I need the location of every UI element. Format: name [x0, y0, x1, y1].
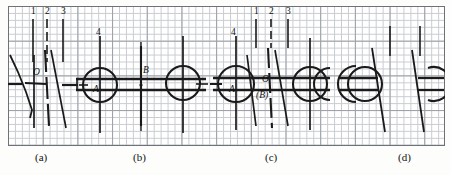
label-c-origin: O: [262, 75, 269, 85]
label-a-2: 2: [45, 7, 50, 17]
figure-root: 1 2 3 O 4 A B 4 1 2 3 A O (B) (a) (b) (c…: [0, 0, 451, 175]
label-a-3: 3: [61, 7, 66, 17]
label-b-B: B: [143, 66, 149, 76]
label-a-1: 1: [31, 7, 36, 17]
label-b-4: 4: [96, 28, 101, 38]
panel-a-geometry: [8, 19, 78, 128]
freehand-curve-a: [10, 55, 32, 118]
arc-d-right: [428, 67, 451, 101]
diagram-ink-layer: [0, 0, 451, 175]
label-a-origin: O: [33, 68, 40, 78]
center-dot-b: [139, 83, 142, 86]
slant-line-c-3: [275, 50, 288, 126]
label-b-A: A: [93, 85, 99, 95]
label-c-3: 3: [286, 7, 291, 17]
caption-a: (a): [35, 151, 47, 163]
panel-d-geometry: [314, 26, 451, 132]
label-c-2: 2: [269, 7, 274, 17]
slant-line-c-2: [268, 48, 272, 128]
label-c-A: A: [229, 85, 235, 95]
datum-mid-a: [25, 83, 46, 84]
label-c-B: (B): [256, 91, 268, 101]
label-c-4: 4: [231, 28, 236, 38]
caption-c: (c): [265, 151, 277, 163]
panel-c-geometry: [210, 19, 330, 130]
caption-d: (d): [398, 151, 411, 163]
caption-b: (b): [133, 151, 146, 163]
label-c-1: 1: [254, 7, 259, 17]
